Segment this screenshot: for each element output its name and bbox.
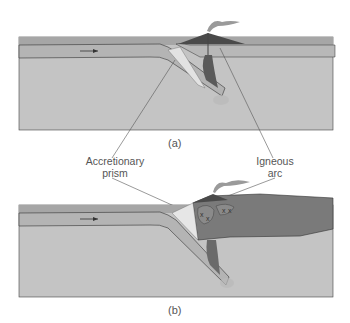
panel-a: [19, 21, 335, 130]
ocean-b: [19, 205, 189, 213]
smoke-b: [213, 180, 250, 193]
caption-b: (b): [168, 304, 181, 316]
label-igneous-arc: Igneous arc: [250, 155, 300, 179]
smoke-a: [207, 21, 240, 32]
label-accretionary-prism: Accretionary prism: [75, 155, 155, 179]
panel-b: x x x x: [19, 180, 333, 297]
svg-text:x: x: [206, 215, 210, 222]
svg-text:x: x: [228, 207, 232, 214]
svg-text:x: x: [200, 211, 204, 218]
svg-text:x: x: [222, 207, 226, 214]
caption-a: (a): [168, 137, 181, 149]
overriding-plate-a: [176, 44, 335, 57]
